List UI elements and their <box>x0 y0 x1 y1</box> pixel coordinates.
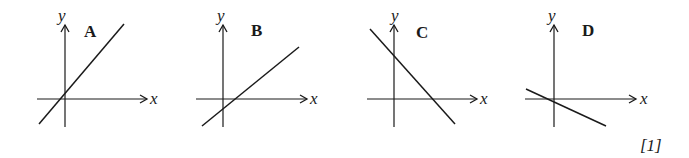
graph-c: x y C <box>367 6 488 127</box>
y-axis-label: y <box>56 6 66 25</box>
graph-d: x y D <box>525 6 648 127</box>
x-axis-label: x <box>639 89 648 108</box>
graph-line <box>526 89 606 126</box>
graphs-figure: x y A x y B x y C x y D <box>0 0 689 158</box>
graph-a: x y A <box>37 6 158 127</box>
x-axis-label: x <box>479 89 488 108</box>
graph-label: D <box>582 21 594 40</box>
x-axis-label: x <box>309 89 318 108</box>
y-axis-label: y <box>215 6 225 25</box>
graph-line <box>39 24 124 124</box>
y-axis-label: y <box>546 6 556 25</box>
graph-label: C <box>416 23 428 42</box>
graph-line <box>370 29 455 124</box>
marks-allocation: [1] <box>640 136 662 156</box>
x-axis-label: x <box>149 89 158 108</box>
graph-line <box>202 47 299 126</box>
graph-label: A <box>84 22 97 41</box>
y-axis-label: y <box>389 6 399 25</box>
graph-b: x y B <box>196 6 318 127</box>
graph-label: B <box>251 21 262 40</box>
